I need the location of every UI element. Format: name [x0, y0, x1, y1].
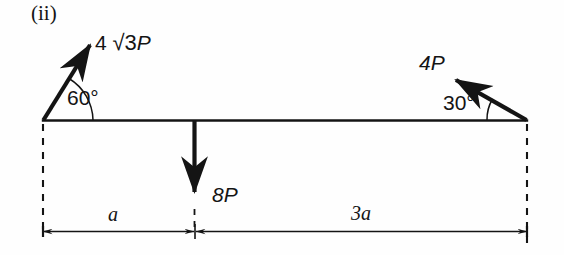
diagram-canvas [0, 0, 564, 255]
left-force-symbol: P [137, 31, 151, 54]
dimension-label-3a: 3a [351, 203, 371, 223]
left-angle-label: 60° [67, 87, 99, 108]
left-force-coefficient: 4 [95, 31, 107, 54]
dimension-label-a: a [108, 204, 118, 224]
mechanics-force-diagram: (ii) 4 √3P 60° 4P 30° 8P a 3a [0, 0, 564, 255]
part-label: (ii) [31, 3, 57, 24]
right-force-label: 4P [419, 52, 445, 73]
left-force-radical: √3 [113, 30, 137, 55]
left-force-label: 4 √3P [95, 32, 151, 54]
right-angle-label: 30° [443, 92, 475, 113]
down-force-label: 8P [212, 184, 238, 205]
